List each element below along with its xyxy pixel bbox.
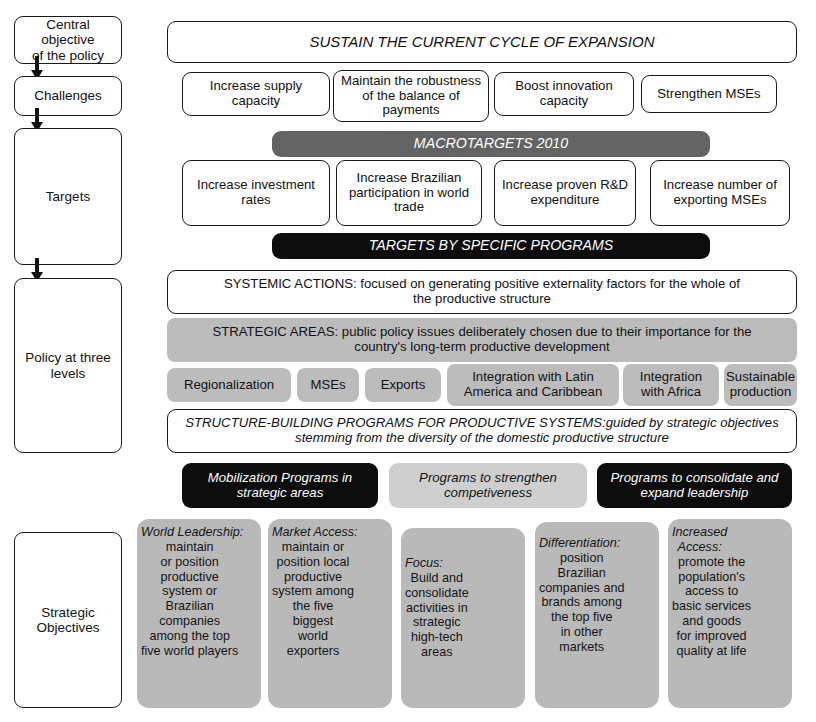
objective-body: maintain or position local productive sy… (272, 540, 354, 659)
strategic-area-chip-label: Integration with Africa (627, 370, 715, 400)
sidebar-item-label: Strategic Objectives (36, 605, 99, 635)
challenge-box: Increase supply capacity (182, 72, 330, 116)
objective-heading: Focus: (405, 556, 443, 571)
macrotargets-band: MACROTARGETS 2010 (272, 131, 710, 157)
strategic-objective-column: Differentiation: position Brazilian comp… (535, 522, 659, 708)
strategic-area-chip-label: Sustainable production (726, 370, 795, 400)
sidebar-item-label: Challenges (34, 88, 102, 103)
strategic-objective-column: Focus: Build and consolidate activities … (401, 528, 525, 708)
macrotarget-label: Increase proven R&D expenditure (499, 178, 631, 208)
objective-heading: Differentiation: (539, 536, 620, 551)
strategic-area-chip: Exports (365, 368, 441, 402)
challenge-label: Boost innovation capacity (499, 79, 629, 109)
structure-building-programs-box: STRUCTURE-BUILDING PROGRAMS FOR PRODUCTI… (167, 409, 797, 453)
macrotarget-box: Increase number of exporting MSEs (650, 160, 790, 226)
structure-building-label: STRUCTURE-BUILDING PROGRAMS FOR PRODUCTI… (177, 416, 787, 446)
systemic-actions-box: SYSTEMIC ACTIONS: focused on generating … (167, 270, 797, 314)
strategic-objective-column: Market Access: maintain or position loca… (268, 519, 392, 708)
sidebar-item-policy-levels: Policy at three levels (14, 278, 122, 453)
strategic-area-chip-label: MSEs (310, 378, 345, 393)
program-bar-label: Programs to consolidate and expand leade… (604, 471, 786, 501)
objective-body: maintain or position productive system o… (141, 540, 238, 659)
objective-body: promote the population's access to basic… (672, 555, 751, 659)
program-bar-mobilization: Mobilization Programs in strategic areas (182, 463, 378, 508)
macrotargets-band-label: MACROTARGETS 2010 (414, 136, 568, 152)
challenge-box: Maintain the robustness of the balance o… (333, 70, 489, 122)
strategic-area-chip: Sustainable production (724, 364, 797, 406)
macrotarget-label: Increase number of exporting MSEs (655, 178, 785, 208)
macrotarget-box: Increase investment rates (182, 160, 330, 226)
objective-body: position Brazilian companies and brands … (539, 551, 624, 655)
program-bar-label: Mobilization Programs in strategic areas (190, 471, 370, 501)
strategic-area-chip: Integration with Latin America and Carib… (447, 364, 619, 406)
strategic-area-chip: Integration with Africa (623, 364, 719, 406)
challenge-label: Strengthen MSEs (657, 87, 760, 102)
strategic-objective-column: Increased Access: promote the population… (668, 519, 792, 708)
strategic-area-chip-label: Regionalization (184, 378, 274, 393)
sidebar-item-targets: Targets (14, 128, 122, 265)
macrotarget-box: Increase proven R&D expenditure (494, 160, 636, 226)
sidebar-item-label: Targets (46, 189, 90, 204)
objective-heading: Market Access: (272, 525, 358, 540)
strategic-area-chip: MSEs (297, 368, 359, 402)
diagram-canvas: Central objective of the policy Challeng… (0, 0, 816, 722)
challenge-label: Maintain the robustness of the balance o… (338, 74, 484, 118)
central-objective-banner: SUSTAIN THE CURRENT CYCLE OF EXPANSION (167, 21, 797, 63)
strategic-areas-label: STRATEGIC AREAS: public policy issues de… (202, 325, 762, 355)
sidebar-item-label: Policy at three levels (25, 350, 111, 380)
strategic-areas-band: STRATEGIC AREAS: public policy issues de… (167, 318, 797, 362)
challenge-box: Strengthen MSEs (641, 75, 777, 113)
program-bar-leadership: Programs to consolidate and expand leade… (597, 463, 792, 508)
macrotarget-label: Increase investment rates (187, 178, 325, 208)
objective-heading: Increased Access: (672, 525, 727, 555)
central-objective-title: SUSTAIN THE CURRENT CYCLE OF EXPANSION (309, 34, 654, 51)
strategic-area-chip: Regionalization (167, 368, 291, 402)
program-bar-label: Programs to strengthen competiveness (398, 471, 578, 501)
macrotarget-label: Increase Brazilian participation in worl… (341, 171, 477, 215)
strategic-area-chip-label: Integration with Latin America and Carib… (451, 370, 615, 400)
challenge-label: Increase supply capacity (187, 79, 325, 109)
macrotarget-box: Increase Brazilian participation in worl… (336, 160, 482, 226)
targets-band-label: TARGETS BY SPECIFIC PROGRAMS (369, 238, 614, 254)
sidebar-item-strategic-objectives: Strategic Objectives (14, 532, 122, 708)
strategic-objective-column: World Leadership: maintain or position p… (137, 519, 261, 708)
program-bar-competiveness: Programs to strengthen competiveness (389, 463, 587, 508)
objective-heading: World Leadership: (141, 525, 243, 540)
systemic-actions-label: SYSTEMIC ACTIONS: focused on generating … (222, 277, 742, 307)
objective-body: Build and consolidate activities in stra… (405, 571, 469, 660)
targets-by-specific-programs-band: TARGETS BY SPECIFIC PROGRAMS (272, 233, 710, 259)
challenge-box: Boost innovation capacity (494, 72, 634, 116)
strategic-area-chip-label: Exports (381, 378, 426, 393)
